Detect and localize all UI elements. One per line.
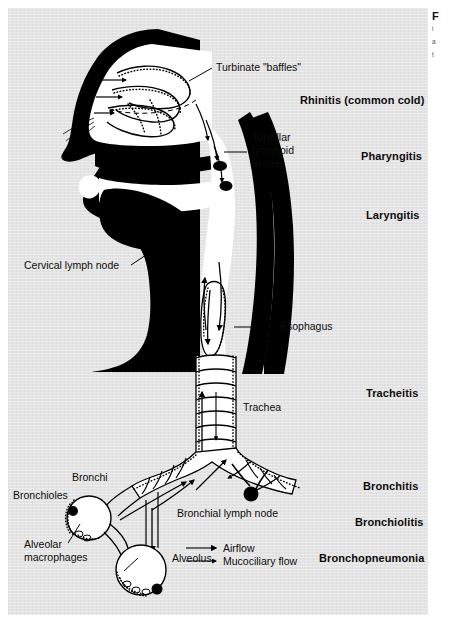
label-tonsillar-line3: tissues <box>252 157 285 169</box>
caption-line-1: i <box>432 22 450 35</box>
label-alveolar-macrophages-line2: macrophages <box>24 551 88 563</box>
condition-bronchiolitis: Bronchiolitis <box>355 516 424 529</box>
label-trachea: Trachea <box>243 401 281 413</box>
label-tonsillar-line1: Tonsillar <box>252 131 291 143</box>
caption-heading: F <box>432 10 450 22</box>
label-alveolar-macrophages-line1: Alveolar <box>24 538 62 550</box>
alveolus-upper <box>66 496 112 541</box>
label-turbinate-baffles: Turbinate "baffles" <box>216 61 301 73</box>
condition-bronchitis: Bronchitis <box>363 480 418 493</box>
label-alveolus: Alveolus <box>172 552 212 564</box>
caption-line-3: t <box>432 48 450 61</box>
label-tonsillar-line2: lymphoid <box>252 144 294 156</box>
alveolus-lower <box>116 545 166 596</box>
head-silhouette <box>61 29 294 374</box>
trachea <box>196 355 236 455</box>
legend-mucociliary-label: Mucociliary flow <box>223 555 297 567</box>
label-bronchial-lymph-node: Bronchial lymph node <box>177 507 278 519</box>
condition-laryngitis: Laryngitis <box>366 209 420 222</box>
condition-rhinitis: Rhinitis (common cold) <box>300 94 424 107</box>
legend-airflow-label: Airflow <box>223 542 255 554</box>
respiratory-tract-figure: Turbinate "baffles" Tonsillar lymphoid t… <box>0 0 450 633</box>
label-cervical-lymph-node: Cervical lymph node <box>24 259 119 271</box>
condition-bronchopneumonia: Bronchopneumonia <box>319 552 425 565</box>
label-bronchioles: Bronchioles <box>13 489 68 501</box>
condition-tracheitis: Tracheitis <box>366 387 418 400</box>
label-bronchi: Bronchi <box>72 471 108 483</box>
caption-line-2: a <box>432 35 450 48</box>
condition-pharyngitis: Pharyngitis <box>361 150 422 163</box>
label-esophagus: Esophagus <box>280 320 333 332</box>
caption-sliver: F i a t <box>432 10 450 61</box>
